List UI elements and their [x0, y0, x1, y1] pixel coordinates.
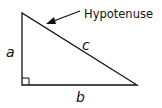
- callout-arrow-line: [51, 11, 80, 22]
- side-b-label: b: [76, 90, 85, 104]
- side-a-label: a: [6, 45, 15, 59]
- hypotenuse-label: Hypotenuse: [84, 9, 153, 21]
- triangle-shape: [22, 13, 137, 85]
- callout-arrowhead-icon: [46, 17, 56, 24]
- side-c-label: c: [82, 38, 90, 52]
- right-angle-marker: [22, 78, 29, 85]
